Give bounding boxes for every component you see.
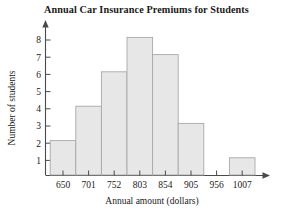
y-tick-label: 1 <box>36 156 41 166</box>
x-axis-tick-labels: 650 701 752 803 854 905 956 1007 <box>56 180 252 190</box>
x-tick-label: 803 <box>133 180 148 190</box>
bars-group <box>50 37 255 175</box>
bar-803 <box>127 37 153 175</box>
y-tick-label: 7 <box>36 53 41 63</box>
bar-701 <box>76 106 102 175</box>
bar-854 <box>153 55 179 175</box>
chart-title: Annual Car Insurance Premiums for Studen… <box>0 4 293 15</box>
x-tick-label: 854 <box>158 180 173 190</box>
y-tick-label: 5 <box>36 87 41 97</box>
y-axis-title: Number of students <box>7 70 17 145</box>
x-tick-label: 701 <box>81 180 96 190</box>
x-tick-label: 752 <box>107 180 122 190</box>
y-tick-label: 3 <box>36 121 41 131</box>
x-tick-label: 1007 <box>233 180 252 190</box>
plot-svg: 1 2 3 4 5 6 7 8 Number of students <box>0 20 293 216</box>
y-tick-label: 4 <box>36 104 41 114</box>
bar-650 <box>50 141 76 175</box>
bar-752 <box>101 72 127 175</box>
y-tick-label: 6 <box>36 70 41 80</box>
y-tick-label: 8 <box>36 35 41 45</box>
x-axis-title: Annual amount (dollars) <box>105 196 198 207</box>
x-axis-arrow-icon <box>263 172 271 178</box>
x-tick-label: 905 <box>184 180 199 190</box>
x-tick-label: 650 <box>56 180 71 190</box>
plot-area: 1 2 3 4 5 6 7 8 Number of students <box>0 20 293 216</box>
x-tick-label: 956 <box>209 180 224 190</box>
y-tick-label: 2 <box>36 139 41 149</box>
bar-905 <box>178 123 204 175</box>
y-axis-tick-labels: 1 2 3 4 5 6 7 8 <box>36 35 41 165</box>
histogram-figure: Annual Car Insurance Premiums for Studen… <box>0 0 293 216</box>
y-axis-arrow-icon <box>42 20 48 28</box>
